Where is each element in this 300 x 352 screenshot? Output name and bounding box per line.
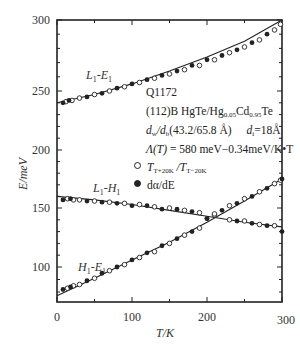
open-data-point — [257, 222, 262, 227]
y-tick-label: 250 — [32, 84, 50, 98]
open-data-point — [257, 38, 262, 43]
annotation-structure: (112)B HgTe/Hg0.05Cd0.95Te — [146, 106, 273, 119]
open-data-point — [92, 92, 97, 97]
data-points — [61, 22, 285, 292]
open-data-point — [152, 249, 157, 254]
filled-data-point — [265, 186, 270, 191]
open-data-point — [152, 205, 157, 210]
open-data-point — [212, 57, 217, 62]
open-circle-icon — [134, 162, 141, 169]
open-data-point — [77, 198, 82, 203]
open-data-point — [197, 226, 202, 231]
open-data-point — [182, 208, 187, 213]
open-data-point — [152, 76, 157, 81]
filled-data-point — [250, 221, 255, 226]
filled-data-point — [190, 63, 195, 68]
annotation-thickness: dw/db(43.2/65.8 Å) di=18Å — [146, 125, 280, 138]
fit-line-h1-e1 — [57, 179, 282, 296]
filled-data-point — [68, 196, 73, 201]
filled-data-point — [115, 201, 120, 206]
filled-data-point — [280, 177, 285, 182]
filled-data-point — [115, 86, 120, 91]
open-data-point — [107, 89, 112, 94]
curve-label-l1-e1: L1-E1 — [85, 68, 112, 84]
filled-data-point — [265, 223, 270, 228]
filled-data-point — [220, 53, 225, 58]
open-data-point — [272, 28, 277, 33]
filled-data-point — [115, 265, 120, 270]
open-data-point — [242, 196, 247, 201]
fit-line-l1-h1 — [57, 196, 282, 227]
filled-data-point — [61, 287, 66, 292]
filled-data-point — [235, 219, 240, 224]
open-data-point — [242, 219, 247, 224]
open-data-point — [107, 200, 112, 205]
open-data-point — [122, 201, 127, 206]
filled-data-point — [160, 73, 165, 78]
filled-data-point — [280, 229, 285, 234]
open-data-point — [242, 45, 247, 50]
open-data-point — [227, 203, 232, 208]
filled-data-point — [85, 278, 90, 283]
open-data-point — [107, 268, 112, 273]
y-axis-title: E/meV — [16, 156, 30, 191]
open-data-point — [92, 276, 97, 281]
legend-filled-circle: dα/dE — [134, 180, 175, 192]
open-data-point — [197, 63, 202, 68]
open-data-point — [212, 212, 217, 217]
y-tick-label: 200 — [32, 143, 50, 157]
open-data-point — [122, 84, 127, 89]
x-tick-label: 100 — [123, 310, 141, 324]
filled-data-point — [205, 216, 210, 221]
filled-data-point — [250, 40, 255, 45]
filled-data-point — [175, 69, 180, 74]
open-data-point — [77, 96, 82, 101]
open-data-point — [92, 199, 97, 204]
filled-data-point — [235, 47, 240, 52]
filled-data-point — [190, 209, 195, 214]
filled-data-point — [61, 197, 66, 202]
filled-data-point — [130, 203, 135, 208]
open-data-point — [167, 206, 172, 211]
legend-open-circle: TT+20K /TT−20K — [134, 162, 206, 175]
open-data-point — [182, 67, 187, 72]
open-data-point — [227, 50, 232, 55]
filled-data-point — [175, 207, 180, 212]
filled-data-point — [145, 203, 150, 208]
annotation-sample: Q1172 — [146, 87, 177, 99]
filled-data-point — [145, 77, 150, 82]
y-tick-label: 100 — [32, 260, 50, 274]
filled-data-point — [220, 208, 225, 213]
annotation-gap-formula: Λ(T) = 580 meV−0.34meV/K•T — [146, 144, 293, 156]
open-data-point — [272, 223, 277, 228]
filled-data-point — [205, 57, 210, 62]
open-data-point — [278, 22, 283, 27]
filled-data-point — [250, 194, 255, 199]
y-tick-label: 150 — [32, 201, 50, 215]
open-data-point — [167, 241, 172, 246]
filled-data-point — [175, 236, 180, 241]
filled-data-point — [68, 285, 73, 290]
filled-data-point — [100, 200, 105, 205]
curve-label-l1-h1: L1-H1 — [92, 181, 120, 197]
x-tick-label: 300 — [277, 313, 295, 327]
open-data-point — [257, 189, 262, 194]
filled-data-point — [190, 229, 195, 234]
open-data-point — [182, 233, 187, 238]
filled-data-point — [265, 32, 270, 37]
open-data-point — [137, 80, 142, 85]
x-tick-label: 0 — [54, 310, 60, 324]
plot-area: 0100200300100150200250300 T/K E/meV L1-E… — [0, 0, 300, 352]
curve-label-h1-e1: H1-E1 — [77, 260, 106, 276]
filled-data-point — [145, 250, 150, 255]
filled-data-point — [61, 100, 66, 105]
open-data-point — [137, 202, 142, 207]
open-data-point — [122, 262, 127, 267]
x-tick-label: 200 — [198, 310, 216, 324]
filled-data-point — [85, 95, 90, 100]
y-tick-label: 300 — [32, 13, 50, 27]
filled-data-point — [67, 98, 72, 103]
filled-data-point — [235, 201, 240, 206]
open-data-point — [77, 282, 82, 287]
filled-data-point — [130, 258, 135, 263]
